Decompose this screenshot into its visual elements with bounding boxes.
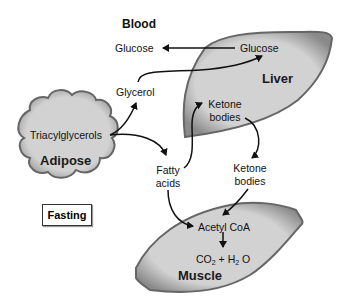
muscle-label: Muscle	[178, 270, 222, 282]
triacylglycerols-label: Triacylglycerols	[30, 129, 102, 141]
co2-text: CO	[196, 253, 212, 265]
blood-ketone-label-2: bodies	[231, 175, 269, 187]
co2-h2o-label: CO2 + H2 O	[196, 253, 250, 269]
fatty-acids-label-2: acids	[150, 177, 186, 189]
liver-glucose-label: Glucose	[240, 42, 279, 54]
blood-glucose-label: Glucose	[115, 42, 154, 54]
liver-ketone-label-2: bodies	[206, 111, 244, 123]
blood-title: Blood	[122, 18, 156, 30]
blood-ketone-label-1: Ketone	[231, 162, 269, 174]
arrow-tag-to-fatty	[110, 134, 166, 155]
o-text: O	[242, 253, 250, 265]
h2o-subscript: 2	[235, 259, 239, 266]
liver-ketone-label-1: Ketone	[206, 98, 244, 110]
acetyl-coa-label: Acetyl CoA	[198, 221, 250, 233]
diagram-canvas	[0, 0, 346, 303]
co2-subscript: 2	[212, 259, 216, 266]
fasting-label: Fasting	[42, 204, 92, 226]
plus-h-text: + H	[219, 253, 236, 265]
glycerol-label: Glycerol	[116, 86, 155, 98]
liver-label: Liver	[262, 73, 293, 85]
adipose-label: Adipose	[40, 155, 91, 167]
fatty-acids-label-1: Fatty	[150, 164, 186, 176]
